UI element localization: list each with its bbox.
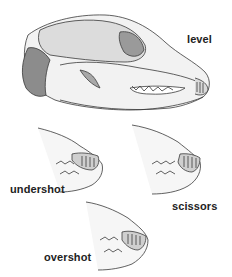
bite-types-diagram: level undershot scissors overshot <box>0 0 232 277</box>
label-undershot: undershot <box>10 183 65 195</box>
muzzle-overshot-illustration <box>86 202 148 270</box>
skull-level-illustration <box>22 15 209 110</box>
label-overshot: overshot <box>44 251 91 263</box>
label-scissors: scissors <box>172 200 217 212</box>
muzzle-scissors-illustration <box>132 125 201 194</box>
label-level: level <box>187 33 212 45</box>
